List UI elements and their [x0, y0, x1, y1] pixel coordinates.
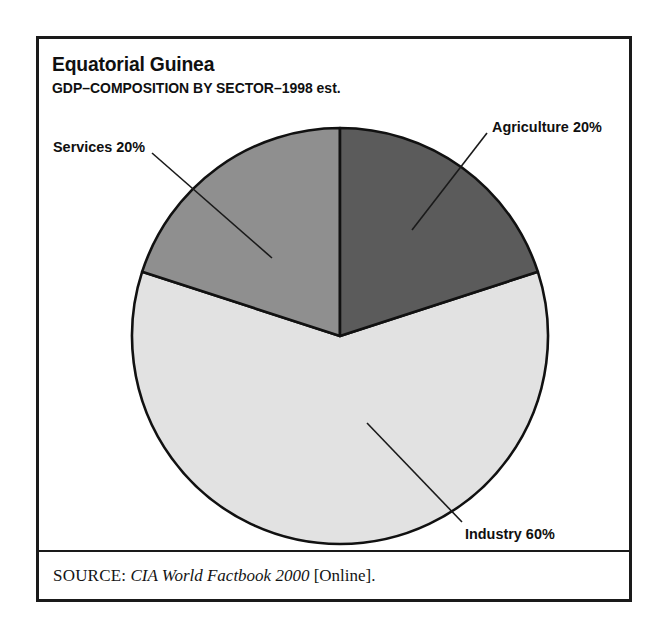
pie-label-industry: Industry 60%: [465, 525, 555, 543]
pie-label-services: Services 20%: [53, 138, 145, 156]
figure-page: Equatorial Guinea GDP–COMPOSITION BY SEC…: [0, 0, 670, 637]
page-title: Equatorial Guinea: [52, 52, 214, 76]
chart-subtitle: GDP–COMPOSITION BY SECTOR–1998 est.: [52, 79, 341, 97]
source-citation: SOURCE: CIA World Factbook 2000 [Online]…: [53, 566, 376, 586]
source-suffix: [Online].: [314, 566, 376, 585]
pie-label-agriculture: Agriculture 20%: [492, 118, 602, 136]
source-title: CIA World Factbook 2000: [130, 566, 309, 585]
source-label: SOURCE:: [53, 566, 126, 585]
